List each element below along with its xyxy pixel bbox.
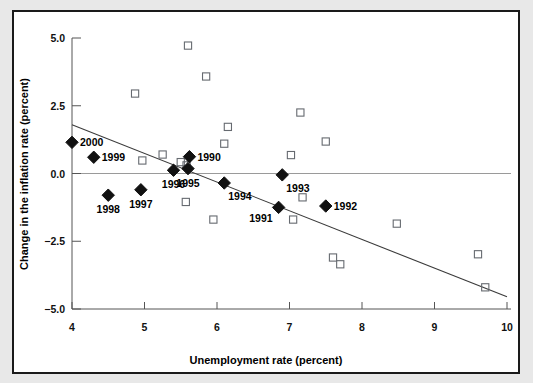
point-year-label: 1997 — [129, 198, 153, 210]
point-year-label: 1994 — [228, 190, 252, 202]
data-point-open-square[interactable] — [290, 216, 297, 223]
data-point-open-square[interactable] — [287, 151, 294, 158]
point-year-label: 1993 — [286, 182, 310, 194]
trend-line — [72, 125, 507, 297]
data-point-filled-diamond[interactable] — [135, 184, 147, 196]
data-point-filled-diamond[interactable] — [218, 177, 230, 189]
data-point-filled-diamond[interactable] — [320, 200, 332, 212]
data-point-open-square[interactable] — [393, 220, 400, 227]
data-point-open-square[interactable] — [474, 251, 481, 258]
data-point-open-square[interactable] — [329, 254, 336, 261]
data-point-open-square[interactable] — [139, 157, 146, 164]
y-tick-label: 2.5 — [50, 100, 65, 112]
x-axis-title: Unemployment rate (percent) — [190, 354, 343, 366]
point-year-labels: 2000199919981997199619951990199419931991… — [80, 136, 357, 224]
point-year-label: 1990 — [197, 151, 221, 163]
y-tick-label: 0.0 — [50, 168, 65, 180]
data-point-open-square[interactable] — [184, 42, 191, 49]
data-point-open-square[interactable] — [322, 138, 329, 145]
data-point-open-square[interactable] — [159, 151, 166, 158]
data-point-filled-diamond[interactable] — [66, 136, 78, 148]
y-axis-title: Change in the inflation rate (percent) — [18, 78, 30, 270]
point-year-label: 1995 — [176, 177, 200, 189]
point-year-label: 1998 — [97, 203, 121, 215]
x-tick-label: 7 — [287, 321, 293, 333]
scatter-plot[interactable]: 45678910 5.02.50.0−2.5−5.0 2000199919981… — [14, 12, 518, 372]
chart-panel: 45678910 5.02.50.0−2.5−5.0 2000199919981… — [12, 10, 520, 374]
data-point-open-square[interactable] — [221, 140, 228, 147]
point-year-label: 1999 — [102, 151, 126, 163]
x-tick-label: 5 — [142, 321, 148, 333]
data-point-filled-diamond[interactable] — [272, 201, 284, 213]
trend-line-group — [72, 125, 507, 297]
y-tick-label: 5.0 — [50, 32, 65, 44]
x-tick-label: 9 — [432, 321, 438, 333]
data-point-open-square[interactable] — [131, 90, 138, 97]
x-tick-label: 8 — [359, 321, 365, 333]
point-year-label: 2000 — [80, 136, 104, 148]
x-tick-label: 10 — [501, 321, 513, 333]
data-point-filled-diamond[interactable] — [182, 162, 194, 174]
data-point-filled-diamond[interactable] — [183, 150, 195, 162]
data-point-open-square[interactable] — [210, 216, 217, 223]
y-tick-labels: 5.02.50.0−2.5−5.0 — [44, 32, 65, 315]
y-tick-label: −5.0 — [44, 303, 65, 315]
data-point-open-square[interactable] — [299, 194, 306, 201]
data-point-filled-diamond[interactable] — [102, 189, 114, 201]
data-point-open-square[interactable] — [337, 261, 344, 268]
data-point-open-square[interactable] — [297, 109, 304, 116]
point-year-label: 1992 — [334, 200, 358, 212]
x-tick-labels: 45678910 — [69, 321, 513, 333]
x-tick-label: 4 — [69, 321, 75, 333]
data-point-open-square[interactable] — [203, 73, 210, 80]
data-point-open-square[interactable] — [182, 198, 189, 205]
point-year-label: 1991 — [249, 212, 273, 224]
data-point-filled-diamond[interactable] — [276, 169, 288, 181]
y-tick-label: −2.5 — [44, 235, 65, 247]
data-point-open-square[interactable] — [224, 123, 231, 130]
x-tick-label: 6 — [214, 321, 220, 333]
data-point-filled-diamond[interactable] — [88, 151, 100, 163]
figure-root: 45678910 5.02.50.0−2.5−5.0 2000199919981… — [0, 0, 533, 383]
